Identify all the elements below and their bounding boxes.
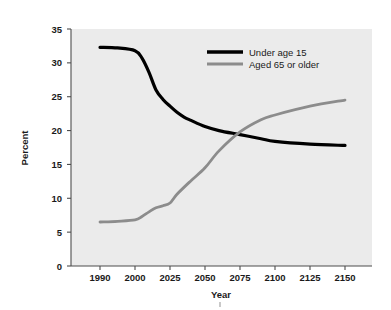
x-tick-label: 2150	[334, 272, 355, 283]
x-tick-label: 2050	[194, 272, 215, 283]
y-tick-label: 10	[51, 193, 62, 204]
x-tick-label: 2025	[159, 272, 181, 283]
y-tick-label: 25	[51, 91, 62, 102]
y-tick-label: 30	[51, 57, 62, 68]
scan-artifact-mark	[219, 302, 221, 307]
x-tick-label: 2000	[124, 272, 145, 283]
y-tick-label: 0	[57, 261, 62, 272]
y-axis-ticks: 05101520253035	[51, 24, 71, 272]
y-tick-label: 35	[51, 24, 62, 35]
x-axis-title: Year	[211, 289, 231, 300]
x-tick-label: 2100	[264, 272, 285, 283]
y-tick-label: 20	[51, 125, 62, 136]
x-tick-label: 2125	[299, 272, 321, 283]
x-tick-label: 1990	[89, 272, 110, 283]
chart-figure: 05101520253035 1990200020252050207521002…	[0, 0, 391, 310]
x-tick-label: 2075	[229, 272, 251, 283]
y-axis-title: Percent	[19, 130, 30, 166]
legend-label-aged-65-or-older: Aged 65 or older	[249, 59, 319, 70]
y-tick-label: 15	[51, 159, 62, 170]
x-axis-ticks: 19902000202520502075210021252150	[89, 266, 355, 283]
legend-label-under-age-15: Under age 15	[249, 47, 307, 58]
population-age-line-chart: 05101520253035 1990200020252050207521002…	[0, 0, 391, 310]
y-tick-label: 5	[57, 227, 63, 238]
